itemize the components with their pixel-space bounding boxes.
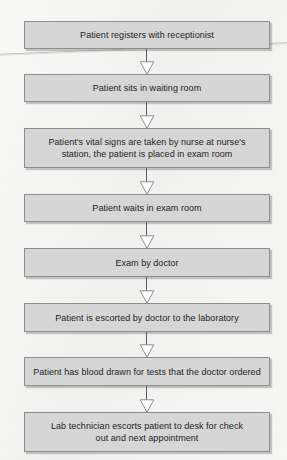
flow-node-label: Lab technician escorts patient to desk f…	[43, 420, 251, 444]
flow-node-step-7[interactable]: Patient has blood drawn for tests that t…	[24, 357, 270, 386]
flow-node-label: Patient sits in waiting room	[85, 82, 209, 94]
flow-node-step-2[interactable]: Patient sits in waiting room	[24, 74, 270, 102]
flow-node-step-3[interactable]: Patient's vital signs are taken by nurse…	[24, 128, 270, 168]
arrowhead-down-icon-2	[139, 115, 155, 129]
arrowhead-down-icon-1	[139, 61, 155, 75]
flow-node-step-6[interactable]: Patient is escorted by doctor to the lab…	[24, 303, 270, 332]
flow-node-label: Exam by doctor	[107, 257, 186, 269]
flowchart: Patient registers with receptionist Pati…	[0, 0, 287, 460]
flow-node-label: Patient registers with receptionist	[72, 29, 222, 41]
arrowhead-down-icon-3	[139, 181, 155, 195]
arrowhead-down-icon-6	[139, 344, 155, 358]
flow-node-label: Patient waits in exam room	[84, 202, 209, 214]
flow-node-step-4[interactable]: Patient waits in exam room	[24, 194, 270, 222]
flow-node-label: Patient's vital signs are taken by nurse…	[40, 136, 253, 160]
arrowhead-down-icon-4	[139, 235, 155, 249]
arrowhead-down-icon-7	[139, 399, 155, 413]
flow-node-step-1[interactable]: Patient registers with receptionist	[24, 21, 270, 49]
flow-node-step-8[interactable]: Lab technician escorts patient to desk f…	[24, 412, 270, 452]
arrowhead-down-icon-5	[139, 290, 155, 304]
flow-node-label: Patient has blood drawn for tests that t…	[25, 366, 269, 378]
flow-node-step-5[interactable]: Exam by doctor	[24, 248, 270, 277]
flow-node-label: Patient is escorted by doctor to the lab…	[47, 312, 246, 324]
